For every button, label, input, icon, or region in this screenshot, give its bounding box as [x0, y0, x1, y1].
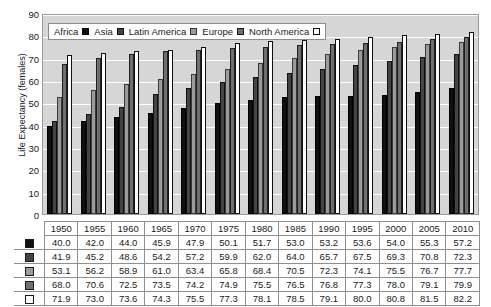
- table-corner-cell: [14, 222, 45, 236]
- table-cell: 68.4: [245, 264, 278, 278]
- table-year-header: 1960: [111, 222, 144, 236]
- table-cell: 72.3: [312, 264, 345, 278]
- legend-swatch-icon: [237, 28, 244, 35]
- table-cell: 59.9: [212, 250, 245, 264]
- table-cell: 50.1: [212, 236, 245, 250]
- bar-group: [277, 15, 310, 214]
- table-cell: 45.9: [145, 236, 178, 250]
- table-cell: 74.9: [212, 278, 245, 292]
- table-cell: 77.3: [212, 292, 245, 306]
- legend-swatch-icon: [117, 28, 124, 35]
- bar: [235, 43, 240, 214]
- y-tick-label: 70: [28, 53, 39, 64]
- table-cell: 72.5: [111, 278, 144, 292]
- table-cell: 78.1: [245, 292, 278, 306]
- table-cell: 58.9: [111, 264, 144, 278]
- legend-item: Latin America: [129, 26, 198, 37]
- table-cell: 80.8: [379, 292, 412, 306]
- table-cell: 71.9: [45, 292, 78, 306]
- table-cell: 81.5: [412, 292, 445, 306]
- bar-group: [143, 15, 176, 214]
- table-cell: 56.2: [78, 264, 111, 278]
- legend-label: Europe: [202, 26, 233, 37]
- bar-group: [43, 15, 76, 214]
- table-cell: 53.2: [312, 236, 345, 250]
- bar: [435, 34, 440, 214]
- table-series-swatch-icon: [14, 236, 45, 250]
- bar: [302, 40, 307, 214]
- legend-label: North America: [249, 26, 309, 37]
- table-cell: 79.1: [312, 292, 345, 306]
- table-header-row: 1950195519601965197019751980198519901995…: [14, 222, 480, 236]
- table-year-header: 1995: [346, 222, 379, 236]
- table-row: 71.973.073.674.375.577.378.178.579.180.0…: [14, 292, 480, 306]
- table-series-swatch-icon: [14, 250, 45, 264]
- table-cell: 75.5: [178, 292, 211, 306]
- table-cell: 78.5: [279, 292, 312, 306]
- bar: [268, 41, 273, 214]
- table-cell: 40.0: [45, 236, 78, 250]
- table-year-header: 1990: [312, 222, 345, 236]
- table-cell: 75.5: [245, 278, 278, 292]
- table-cell: 67.5: [346, 250, 379, 264]
- table-cell: 44.0: [111, 236, 144, 250]
- chart-legend: AfricaAsiaLatin AmericaEuropeNorth Ameri…: [48, 23, 326, 40]
- table-cell: 77.3: [346, 278, 379, 292]
- legend-item: Asia: [94, 26, 123, 37]
- table-cell: 54.0: [379, 236, 412, 250]
- table-row: 68.070.672.573.574.274.975.576.576.877.3…: [14, 278, 480, 292]
- table-cell: 74.2: [178, 278, 211, 292]
- table-cell: 65.7: [312, 250, 345, 264]
- table-cell: 53.6: [346, 236, 379, 250]
- table-cell: 62.0: [245, 250, 278, 264]
- bar: [101, 53, 106, 214]
- table-cell: 64.0: [279, 250, 312, 264]
- table-year-header: 2010: [446, 222, 480, 236]
- table-cell: 70.8: [412, 250, 445, 264]
- table-cell: 79.1: [412, 278, 445, 292]
- bar: [469, 32, 474, 214]
- table-cell: 55.3: [412, 236, 445, 250]
- y-tick-label: 40: [28, 120, 39, 131]
- table-series-swatch-icon: [14, 264, 45, 278]
- bar-group: [244, 15, 277, 214]
- table-cell: 73.0: [78, 292, 111, 306]
- table-cell: 45.2: [78, 250, 111, 264]
- table-cell: 68.0: [45, 278, 78, 292]
- table-cell: 74.3: [145, 292, 178, 306]
- table-cell: 79.9: [446, 278, 480, 292]
- bar-group: [110, 15, 143, 214]
- table-series-swatch-icon: [14, 292, 45, 306]
- bar: [368, 37, 373, 214]
- series-swatch-icon: [25, 239, 34, 248]
- y-tick-label: 50: [28, 98, 39, 109]
- legend-label: Latin America: [129, 26, 187, 37]
- table-cell: 57.2: [446, 236, 480, 250]
- table-cell: 69.3: [379, 250, 412, 264]
- y-tick-label: 80: [28, 31, 39, 42]
- legend-swatch-icon: [82, 28, 89, 35]
- y-tick-label: 20: [28, 165, 39, 176]
- bar: [168, 50, 173, 214]
- table-cell: 78.0: [379, 278, 412, 292]
- bar-groups: [43, 15, 478, 214]
- y-tick-label: 0: [34, 210, 39, 221]
- table-year-header: 1950: [45, 222, 78, 236]
- table-year-header: 1965: [145, 222, 178, 236]
- table-cell: 73.6: [111, 292, 144, 306]
- table-cell: 72.3: [446, 250, 480, 264]
- legend-swatch-icon: [313, 28, 320, 35]
- table-year-header: 2005: [412, 222, 445, 236]
- table-cell: 51.7: [245, 236, 278, 250]
- table-series-swatch-icon: [14, 278, 45, 292]
- table-cell: 53.1: [45, 264, 78, 278]
- legend-item: Europe: [202, 26, 244, 37]
- y-tick-label: 60: [28, 76, 39, 87]
- legend-label: Asia: [94, 26, 112, 37]
- table-cell: 70.6: [78, 278, 111, 292]
- table-cell: 73.5: [145, 278, 178, 292]
- legend-item: Africa: [54, 26, 89, 37]
- table-cell: 61.0: [145, 264, 178, 278]
- table-cell: 65.8: [212, 264, 245, 278]
- bar-group: [411, 15, 444, 214]
